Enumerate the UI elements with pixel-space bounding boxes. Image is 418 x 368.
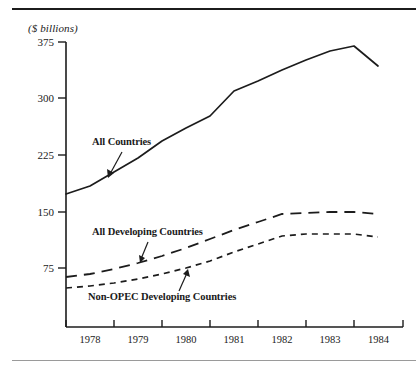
y-tick-label-75: 75 (20, 262, 54, 274)
x-tick-label-1981: 1981 (210, 334, 258, 345)
y-tick-label-300: 300 (20, 92, 54, 104)
series-line-all-developing (66, 212, 378, 277)
leader-all-countries (107, 152, 122, 178)
x-tick-label-1978: 1978 (66, 334, 114, 345)
x-axis-ticks (66, 320, 403, 327)
x-tick-label-1983: 1983 (306, 334, 354, 345)
x-tick-label-1984: 1984 (354, 334, 403, 345)
y-tick-label-150: 150 (20, 206, 54, 218)
x-tick-label-1980: 1980 (162, 334, 210, 345)
series-label-all-countries: All Countries (92, 136, 151, 147)
leader-non-opec-developing (179, 269, 190, 291)
series-line-all-countries (66, 46, 378, 194)
series-label-non-opec-developing: Non-OPEC Developing Countries (88, 291, 236, 302)
plot-area (0, 0, 418, 368)
x-tick-label-1979: 1979 (114, 334, 162, 345)
series-line-non-opec-developing (66, 234, 378, 288)
x-tick-label-1982: 1982 (258, 334, 306, 345)
y-tick-label-375: 375 (20, 36, 54, 48)
series-label-all-developing: All Developing Countries (92, 226, 203, 237)
y-axis-ticks (58, 42, 66, 268)
y-tick-label-225: 225 (20, 149, 54, 161)
chart-figure: ($ billions) (0, 0, 418, 368)
